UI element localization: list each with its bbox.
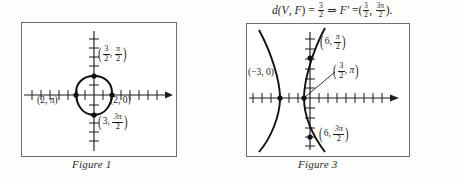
figure3-label-top-inner: 6, π2 xyxy=(325,33,342,51)
figure1-label-top-theta-num: π xyxy=(115,45,122,54)
figure3-label-middle-comma: , xyxy=(345,65,347,75)
figure1-label-top-theta-fraction: π2 xyxy=(115,45,122,63)
figure1-caption: Figure 1 xyxy=(72,158,111,170)
figure3-label-top-theta-fraction: π2 xyxy=(334,33,341,51)
figure1-label-left-text: (2, π) xyxy=(37,95,58,105)
figure1-label-top-r-den: 2 xyxy=(103,54,110,64)
equation-theta-fraction: 3π2 xyxy=(376,2,386,18)
figure1-svg xyxy=(22,23,176,156)
equation-period: . xyxy=(389,4,392,16)
figure1-label-top-r-fraction: 32 xyxy=(103,45,110,63)
figure1-frame xyxy=(21,22,177,157)
equation-distance-fraction: 32 xyxy=(318,2,324,18)
figure3-label-left: (−3, 0) xyxy=(248,68,274,78)
figure3-label-middle-theta: π xyxy=(350,65,355,75)
figure1-label-bottom-close-paren: ) xyxy=(124,116,128,128)
figure1-point-left xyxy=(73,92,78,97)
figure1-point-bottom xyxy=(91,112,96,117)
figure1-label-bottom-comma: , xyxy=(107,116,109,126)
figure1-label-top: (32, π2) xyxy=(97,45,127,63)
figure3-point-top xyxy=(307,55,312,60)
equation-r-fraction: 32 xyxy=(363,2,369,18)
equation-d-close: ) xyxy=(301,4,305,16)
equation-d-function: d( xyxy=(272,4,282,16)
figure3-caption: Figure 3 xyxy=(298,158,337,170)
equation-equals: = xyxy=(308,4,315,16)
equation-open-paren: ( xyxy=(359,4,363,16)
figure3-label-bottom-group: (6, 3π2) xyxy=(318,125,350,143)
equation-line: d(V, F) = 32 ⇒ F′ =(32, 3π2). xyxy=(272,1,458,19)
figure3-label-bottom: (6, 3π2) xyxy=(318,125,350,143)
figure1-label-bottom: (3, 3π2) xyxy=(97,113,129,131)
figure1-plot xyxy=(22,23,176,156)
figure3-label-middle-r-den: 2 xyxy=(338,71,345,81)
equation-r-denominator: 2 xyxy=(363,10,369,19)
figure3-label-top-theta-num: π xyxy=(334,33,341,42)
figure3-point-bottom xyxy=(307,134,312,139)
figure1-label-top-comma: , xyxy=(110,48,112,58)
figure1-label-right-text: (2, 0) xyxy=(110,95,131,105)
equation-distance-numerator: 3 xyxy=(318,2,324,10)
figure3-label-middle-inner: 32, π xyxy=(338,62,355,80)
figure1-label-bottom-theta-den: 2 xyxy=(112,122,123,132)
figure1-label-bottom-open-paren: ( xyxy=(98,116,102,128)
figure3-label-top-comma: , xyxy=(329,36,331,46)
figure3-point-left-vertex xyxy=(277,95,282,100)
figure3-label-top-open-paren: ( xyxy=(320,36,324,48)
figure1-label-top-group: (32, π2) xyxy=(97,45,127,63)
figure3-curve-left-branch xyxy=(259,30,280,152)
equation-r-numerator: 3 xyxy=(363,2,369,10)
figure3-label-middle-open-paren: ( xyxy=(333,65,337,77)
figure3-label-top-theta-den: 2 xyxy=(334,42,341,52)
figure3-label-bottom-close-paren: ) xyxy=(345,128,349,140)
figure1-label-right: (2, 0) xyxy=(110,96,131,106)
figure3-label-bottom-comma: , xyxy=(328,128,330,138)
figure3-x-axis-arrow-icon xyxy=(390,95,399,102)
figure3-label-left-text: (−3, 0) xyxy=(248,67,274,77)
equation-distance-denominator: 2 xyxy=(318,10,324,19)
figure1-x-axis-arrow-icon xyxy=(165,92,173,99)
figure3-label-middle: (32, π) xyxy=(332,62,360,80)
figure1-label-bottom-inner: 3, 3π2 xyxy=(103,113,124,131)
figure3-label-bottom-theta-den: 2 xyxy=(333,134,344,144)
equation-comma: , xyxy=(369,4,372,16)
equation-focus-symbol: F′ xyxy=(340,4,350,16)
figure1-label-bottom-theta-fraction: 3π2 xyxy=(112,113,123,131)
figure3-label-bottom-theta-num: 3π xyxy=(333,125,344,134)
figure3-label-middle-close-paren: ) xyxy=(355,65,359,77)
figure1-label-top-theta-den: 2 xyxy=(115,54,122,64)
figure1-label-top-r-num: 3 xyxy=(103,45,110,54)
implies-arrow-icon: ⇒ xyxy=(327,4,337,16)
figure3-label-top: (6, π2) xyxy=(319,33,347,51)
equation-theta-numerator: 3π xyxy=(376,2,386,10)
figure3-label-top-group: (6, π2) xyxy=(319,33,347,51)
figure1-label-bottom-group: (3, 3π2) xyxy=(97,113,129,131)
equation-arg-v: V xyxy=(282,4,289,16)
figure3-label-bottom-open-paren: ( xyxy=(319,128,323,140)
equation-theta-denominator: 2 xyxy=(376,10,386,19)
figure3-label-bottom-theta-fraction: 3π2 xyxy=(333,125,344,143)
figure1-label-top-close-paren: ) xyxy=(123,48,127,60)
figure1-label-bottom-theta-num: 3π xyxy=(112,113,123,122)
figure3-label-middle-r-fraction: 32 xyxy=(338,62,345,80)
figure3-label-top-close-paren: ) xyxy=(342,36,346,48)
figure1-label-top-open-paren: ( xyxy=(98,48,102,60)
figure3-label-bottom-inner: 6, 3π2 xyxy=(324,125,345,143)
figure1-point-top xyxy=(91,73,96,78)
figure3-label-middle-group: (32, π) xyxy=(332,62,360,80)
figure1-label-top-inner: 32, π2 xyxy=(103,45,122,63)
figure1-label-left: (2, π) xyxy=(37,96,58,106)
figure3-label-middle-r-num: 3 xyxy=(338,62,345,71)
